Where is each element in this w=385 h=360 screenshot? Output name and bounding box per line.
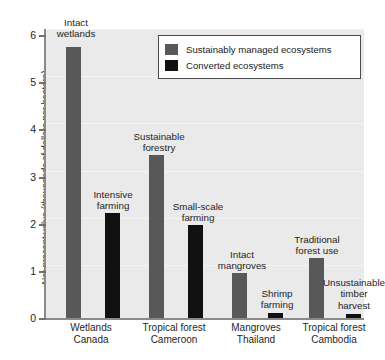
bar-annotation-intact-wetlands: Intact wetlands <box>57 17 96 40</box>
y-tick-3 <box>39 177 46 179</box>
legend-item-sustainably-managed[interactable]: Sustainably managed ecosystems <box>165 41 354 57</box>
group-label-line: Thailand <box>231 334 280 346</box>
bar-sustainable-forestry[interactable] <box>149 155 164 318</box>
y-tick-label-1: 1 <box>30 265 36 277</box>
bar-annotation-line: mangroves <box>218 260 266 271</box>
bar-annotation-line: forestry <box>133 142 184 153</box>
y-tick-label-4: 4 <box>30 123 36 135</box>
legend-swatch-icon-managed <box>165 44 178 55</box>
bar-annotation-unsustainable-timber-harvest: Unsustainable timber harvest <box>323 277 385 311</box>
y-tick-label-2: 2 <box>30 218 36 230</box>
group-label-line: Wetlands <box>70 322 112 334</box>
y-tick-1 <box>39 271 46 273</box>
group-label-line: Tropical forest <box>303 322 366 334</box>
group-label-line: Cambodia <box>303 334 366 346</box>
bar-annotation-line: Sustainable <box>133 131 184 142</box>
bar-annotation-line: Traditional <box>294 234 339 245</box>
bar-annotation-small-scale-farming: Small-scale farming <box>173 201 224 224</box>
bar-intensive-farming[interactable] <box>105 213 120 318</box>
bar-annotation-line: Intact <box>57 17 96 28</box>
bar-intact-wetlands[interactable] <box>66 47 81 318</box>
bar-small-scale-farming[interactable] <box>188 225 203 318</box>
bar-annotation-line: Intact <box>218 249 266 260</box>
group-label-line: Tropical forest <box>143 322 206 334</box>
bar-annotation-line: Shrimp <box>261 288 294 299</box>
x-axis-group-wetlands-canada: Wetlands Canada <box>70 322 112 346</box>
bar-shrimp-farming[interactable] <box>268 313 283 318</box>
y-tick-6 <box>39 35 46 37</box>
y-tick-2 <box>39 224 46 226</box>
bar-annotation-line: harvest <box>323 300 385 311</box>
bar-unsustainable-timber-harvest[interactable] <box>346 314 361 318</box>
legend-swatch-icon-converted <box>165 60 178 71</box>
bar-annotation-line: forest use <box>294 245 339 256</box>
bar-annotation-line: wetlands <box>57 28 96 39</box>
bar-annotation-line: Intensive <box>93 189 132 200</box>
group-label-line: Mangroves <box>231 322 280 334</box>
x-axis-group-tropical-forest-cambodia: Tropical forest Cambodia <box>303 322 366 346</box>
bar-annotation-line: farming <box>173 212 224 223</box>
bar-annotation-line: Unsustainable <box>323 277 385 288</box>
x-axis-group-tropical-forest-cameroon: Tropical forest Cameroon <box>143 322 206 346</box>
y-tick-4 <box>39 129 46 131</box>
y-tick-label-3: 3 <box>30 171 36 183</box>
legend-label-managed: Sustainably managed ecosystems <box>186 44 332 55</box>
y-tick-label-5: 5 <box>30 76 36 88</box>
legend-item-converted[interactable]: Converted ecosystems <box>165 57 354 73</box>
legend: Sustainably managed ecosystems Converted… <box>158 35 361 79</box>
bar-annotation-line: Small-scale <box>173 201 224 212</box>
bar-annotation-line: timber <box>323 288 385 299</box>
bar-annotation-sustainable-forestry: Sustainable forestry <box>133 131 184 154</box>
group-label-line: Canada <box>70 334 112 346</box>
x-axis-group-mangroves-thailand: Mangroves Thailand <box>231 322 280 346</box>
bar-annotation-line: farming <box>261 299 294 310</box>
gridline-3 <box>46 171 364 172</box>
bar-annotation-intact-mangroves: Intact mangroves <box>218 249 266 272</box>
bar-intact-mangroves[interactable] <box>232 273 247 318</box>
bar-annotation-line: farming <box>93 200 132 211</box>
group-label-line: Cameroon <box>143 334 206 346</box>
gridline-4 <box>46 123 364 124</box>
y-tick-label-6: 6 <box>30 29 36 41</box>
y-tick-0 <box>39 318 46 320</box>
y-tick-5 <box>39 82 46 84</box>
y-tick-label-0: 0 <box>30 312 36 324</box>
bar-annotation-shrimp-farming: Shrimp farming <box>261 288 294 311</box>
bar-annotation-traditional-forest-use: Traditional forest use <box>294 234 339 257</box>
bar-annotation-intensive-farming: Intensive farming <box>93 189 132 212</box>
bar-traditional-forest-use[interactable] <box>309 258 324 318</box>
legend-label-converted: Converted ecosystems <box>186 60 284 71</box>
